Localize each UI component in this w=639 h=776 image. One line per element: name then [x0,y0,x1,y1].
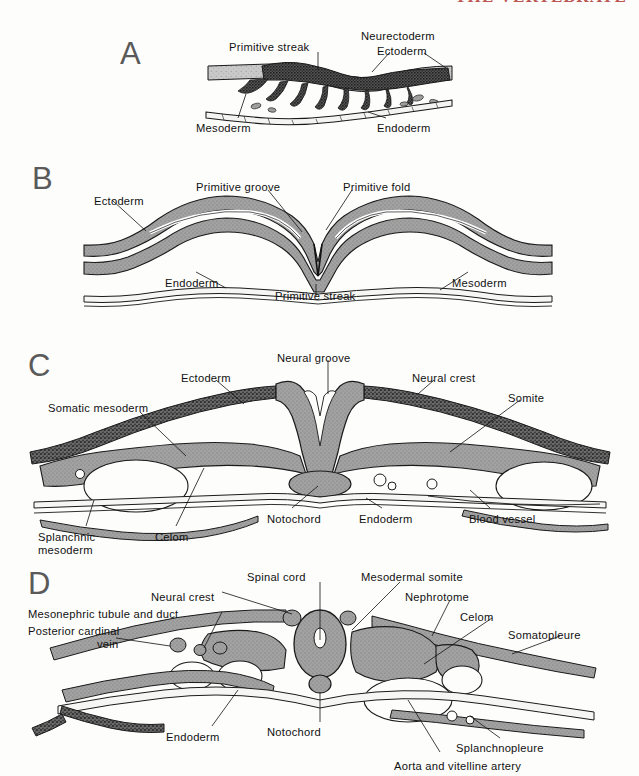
label-somatic-mesoderm: Somatic mesoderm [48,402,148,415]
label-primitive-fold: Primitive fold [343,181,411,194]
panel-letter-d: D [28,568,50,599]
label-mesoderm-b: Mesoderm [452,277,507,290]
label-primitive-streak-a: Primitive streak [229,41,309,54]
label-neural-crest-d: Neural crest [151,591,214,604]
panel-letter-b: B [32,163,53,194]
label-posterior-cardinal-line1: Posterior cardinal [28,625,120,638]
label-celom-c: Celom [155,531,189,544]
figure-page: THE VERTEBRATE [0,0,639,776]
label-neural-crest-c: Neural crest [412,372,475,385]
label-mesoderm-a: Mesoderm [196,122,251,135]
label-neurectoderm: Neurectoderm [361,30,435,43]
panel-a-drawing [206,52,452,125]
label-posterior-cardinal-line2: vein [97,638,119,651]
label-primitive-streak-b: Primitive streak [275,290,355,303]
label-somite: Somite [508,392,544,405]
embryo-cross-section-illustration [0,0,639,776]
label-blood-vessel: Blood vessel [469,513,535,526]
label-notochord-c: Notochord [267,513,321,526]
label-endoderm-c: Endoderm [359,513,413,526]
label-splanchnopleure: Splanchnopleure [456,742,544,755]
label-splanchnic-line2: mesoderm [38,544,93,557]
panel-letter-a: A [120,38,141,69]
running-head-strip: THE VERTEBRATE [0,0,639,6]
label-notochord-d: Notochord [267,726,321,739]
label-mesonephric-tubule-duct: Mesonephric tubule and duct [28,608,178,621]
label-ectoderm-c: Ectoderm [181,372,231,385]
label-splanchnic-line1: Splanchnic [38,531,95,544]
label-endoderm-b: Endoderm [165,277,219,290]
label-ectoderm-a: Ectoderm [377,45,427,58]
label-ectoderm-b: Ectoderm [94,195,144,208]
label-mesodermal-somite: Mesodermal somite [361,571,463,584]
label-primitive-groove: Primitive groove [196,181,280,194]
label-nephrotome: Nephrotome [405,591,469,604]
label-spinal-cord: Spinal cord [247,571,306,584]
label-celom-d: Celom [460,611,494,624]
label-neural-groove: Neural groove [277,352,351,365]
panel-letter-c: C [28,350,50,381]
label-aorta-vitelline-artery: Aorta and vitelline artery [394,760,521,773]
label-somatopleure: Somatopleure [508,629,581,642]
label-endoderm-d: Endoderm [166,731,220,744]
running-head-text: THE VERTEBRATE [455,0,627,6]
label-endoderm-a: Endoderm [377,122,431,135]
